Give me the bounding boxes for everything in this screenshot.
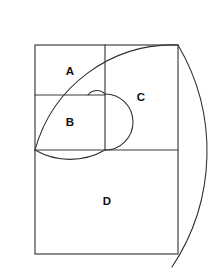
label-b: B xyxy=(66,116,74,128)
spiral-arc-c xyxy=(35,150,105,159)
golden-spiral-figure: A B C D xyxy=(0,0,220,280)
spiral-arc-outer-large xyxy=(35,45,178,150)
label-a: A xyxy=(66,65,74,77)
diagram-canvas: A B C D xyxy=(0,0,220,280)
spiral-arc-outer-right xyxy=(172,45,207,267)
spiral-arc-a-inner xyxy=(88,90,105,95)
spiral-arc-b xyxy=(105,94,133,150)
rectangle-group xyxy=(35,45,178,254)
fibonacci-spiral-group xyxy=(35,45,207,267)
label-d: D xyxy=(103,195,111,207)
label-c: C xyxy=(137,91,145,103)
